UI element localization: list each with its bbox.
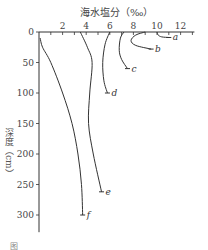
x-tick-label: 10 bbox=[151, 21, 163, 31]
series-b: b bbox=[131, 32, 161, 54]
curves: abcdef bbox=[40, 32, 178, 220]
series-label: d bbox=[111, 88, 117, 98]
x-tick-label: 2 bbox=[60, 21, 66, 31]
series-c: c bbox=[119, 32, 136, 74]
axes: 24681012050100150200250300 bbox=[17, 21, 195, 232]
series-label: c bbox=[132, 64, 137, 74]
figure-caption: 图 bbox=[10, 240, 18, 250]
series-a: a bbox=[157, 32, 178, 42]
y-tick-label: 200 bbox=[17, 149, 34, 159]
x-tick-label: 12 bbox=[175, 21, 186, 31]
y-tick-label: 150 bbox=[17, 119, 34, 129]
x-tick-label: 4 bbox=[83, 21, 89, 31]
y-tick-label: 50 bbox=[23, 58, 35, 68]
series-label: b bbox=[155, 44, 161, 54]
series-f: f bbox=[40, 38, 91, 220]
y-tick-label: 300 bbox=[17, 210, 34, 220]
x-tick-label: 6 bbox=[107, 21, 113, 31]
x-tick-label: 8 bbox=[131, 21, 137, 31]
series-label: f bbox=[86, 210, 92, 220]
y-tick-label: 100 bbox=[17, 88, 34, 98]
y-tick-label: 0 bbox=[28, 27, 34, 37]
series-e: e bbox=[80, 32, 111, 197]
series-label: e bbox=[106, 187, 111, 197]
series-label: a bbox=[173, 32, 178, 42]
series-d: d bbox=[103, 32, 118, 98]
salinity-depth-chart: 24681012050100150200250300 abcdef bbox=[0, 0, 208, 250]
y-tick-label: 250 bbox=[17, 180, 34, 190]
